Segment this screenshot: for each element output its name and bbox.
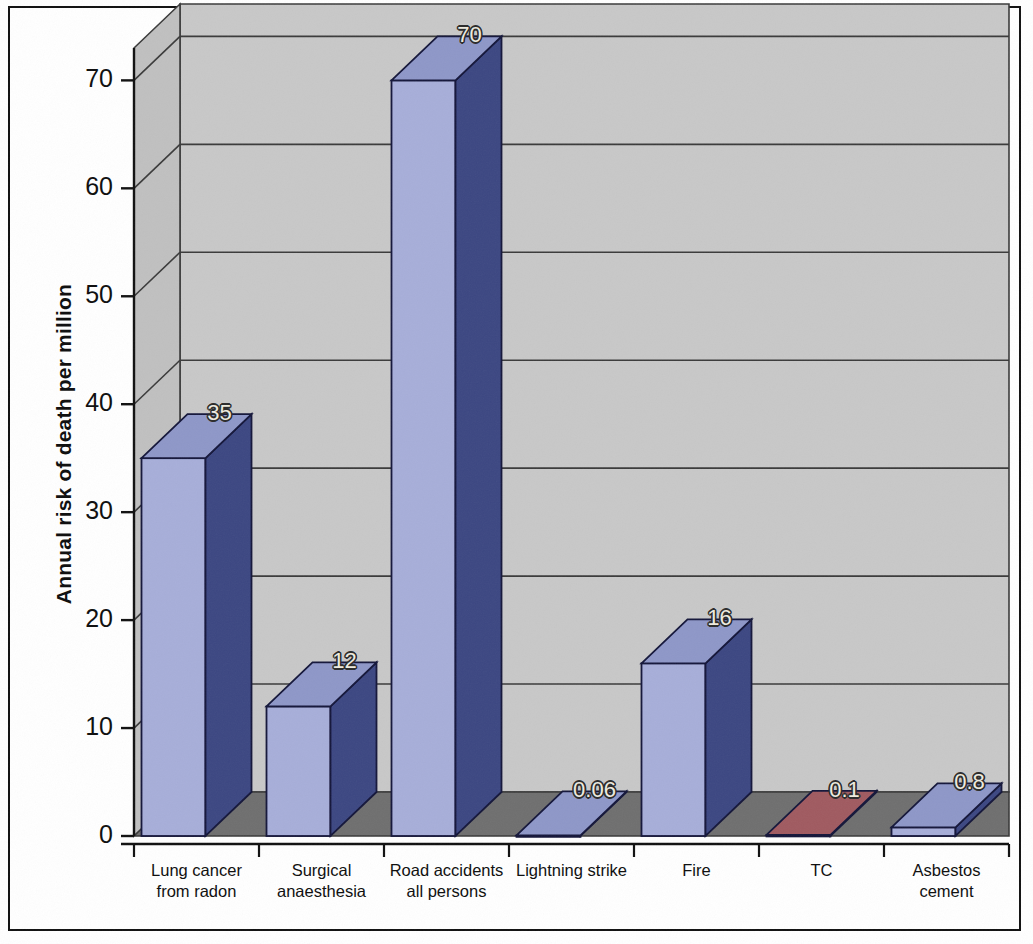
bar-1 <box>142 414 252 836</box>
bar-front-face <box>142 458 206 836</box>
bar-side-face <box>456 36 502 836</box>
y-tick-label: 40 <box>53 388 113 417</box>
x-category-label: Asbestoscement <box>871 860 1022 902</box>
bar-front-face <box>392 80 456 836</box>
bar-5 <box>642 619 752 836</box>
y-tick-label: 60 <box>53 172 113 201</box>
y-tick-label: 10 <box>53 712 113 741</box>
bar-side-face <box>206 414 252 836</box>
bar-front-face <box>642 663 706 836</box>
y-tick-label: 50 <box>53 280 113 309</box>
bar-front-face <box>892 827 956 836</box>
y-tick-label: 20 <box>53 604 113 633</box>
chart-figure: Annual risk of death per million 0102030… <box>0 0 1033 944</box>
y-tick-label: 0 <box>53 820 113 849</box>
y-tick-label: 30 <box>53 496 113 525</box>
chart-plot-area <box>0 0 1033 944</box>
y-tick-label: 70 <box>53 64 113 93</box>
bar-front-face <box>267 706 331 836</box>
bar-3 <box>392 36 502 836</box>
